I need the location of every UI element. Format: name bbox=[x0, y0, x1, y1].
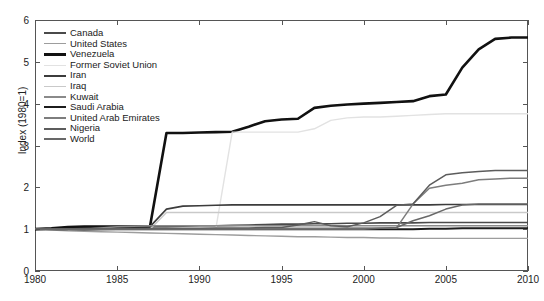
series-line bbox=[35, 229, 528, 238]
legend-item[interactable]: Iraq bbox=[44, 81, 160, 92]
y-tick-mark bbox=[35, 104, 40, 105]
legend-swatch-line-icon bbox=[44, 65, 66, 66]
legend-item-label: Iraq bbox=[70, 81, 86, 92]
legend-item-label: Canada bbox=[70, 28, 103, 39]
x-tick-label: 1980 bbox=[24, 274, 46, 285]
x-tick-mark bbox=[35, 266, 36, 271]
legend-item[interactable]: Canada bbox=[44, 28, 160, 39]
legend-item[interactable]: Nigeria bbox=[44, 123, 160, 134]
y-tick-mark-right bbox=[523, 62, 528, 63]
y-tick-label: 6 bbox=[23, 15, 29, 26]
legend-item[interactable]: Former Soviet Union bbox=[44, 60, 160, 71]
x-tick-mark-top bbox=[282, 20, 283, 25]
y-tick-mark-right bbox=[523, 146, 528, 147]
y-tick-mark bbox=[35, 229, 40, 230]
legend-swatch-line-icon bbox=[44, 43, 66, 44]
legend-swatch-line-icon bbox=[44, 75, 66, 77]
legend-swatch-line-icon bbox=[44, 106, 66, 108]
y-tick-mark bbox=[35, 62, 40, 63]
legend-swatch-line-icon bbox=[44, 117, 66, 119]
y-tick-mark bbox=[35, 187, 40, 188]
chart-legend: CanadaUnited StatesVenezuelaFormer Sovie… bbox=[44, 28, 160, 145]
y-tick-label: 5 bbox=[23, 56, 29, 67]
legend-item[interactable]: United Arab Emirates bbox=[44, 113, 160, 124]
y-tick-mark bbox=[35, 146, 40, 147]
y-tick-mark-right bbox=[523, 187, 528, 188]
x-tick-mark bbox=[364, 266, 365, 271]
legend-swatch-line-icon bbox=[44, 128, 66, 130]
x-tick-mark bbox=[282, 266, 283, 271]
x-tick-mark bbox=[446, 266, 447, 271]
x-tick-mark bbox=[199, 266, 200, 271]
y-tick-label: 3 bbox=[23, 140, 29, 151]
legend-swatch-line-icon bbox=[44, 96, 66, 98]
y-tick-mark-right bbox=[523, 229, 528, 230]
y-tick-label: 1 bbox=[23, 224, 29, 235]
y-tick-mark-right bbox=[523, 104, 528, 105]
y-tick-label: 4 bbox=[23, 98, 29, 109]
series-line bbox=[35, 171, 528, 230]
legend-swatch-line-icon bbox=[44, 53, 66, 56]
y-tick-mark-right bbox=[523, 271, 528, 272]
x-tick-mark-top bbox=[117, 20, 118, 25]
x-tick-mark-top bbox=[364, 20, 365, 25]
x-tick-mark-top bbox=[199, 20, 200, 25]
x-tick-label: 1985 bbox=[106, 274, 128, 285]
figure-chart: Index (1980=1) 0123456 19801985199019952… bbox=[0, 0, 544, 301]
y-tick-mark bbox=[35, 271, 40, 272]
legend-item[interactable]: World bbox=[44, 134, 160, 145]
x-tick-mark-top bbox=[446, 20, 447, 25]
x-tick-mark bbox=[117, 266, 118, 271]
legend-item-label: World bbox=[70, 134, 95, 145]
legend-swatch-line-icon bbox=[44, 138, 66, 140]
legend-swatch-line-icon bbox=[44, 86, 66, 87]
x-tick-mark-top bbox=[528, 20, 529, 25]
x-tick-label: 1990 bbox=[188, 274, 210, 285]
x-tick-label: 2000 bbox=[353, 274, 375, 285]
x-tick-label: 2010 bbox=[517, 274, 539, 285]
y-tick-label: 2 bbox=[23, 182, 29, 193]
x-tick-mark bbox=[528, 266, 529, 271]
x-tick-label: 1995 bbox=[270, 274, 292, 285]
legend-swatch-line-icon bbox=[44, 32, 66, 34]
y-axis-tick-labels: 0123456 bbox=[0, 0, 33, 301]
x-tick-mark-top bbox=[35, 20, 36, 25]
x-tick-label: 2005 bbox=[435, 274, 457, 285]
series-line bbox=[35, 178, 528, 229]
legend-item[interactable]: Iran bbox=[44, 70, 160, 81]
